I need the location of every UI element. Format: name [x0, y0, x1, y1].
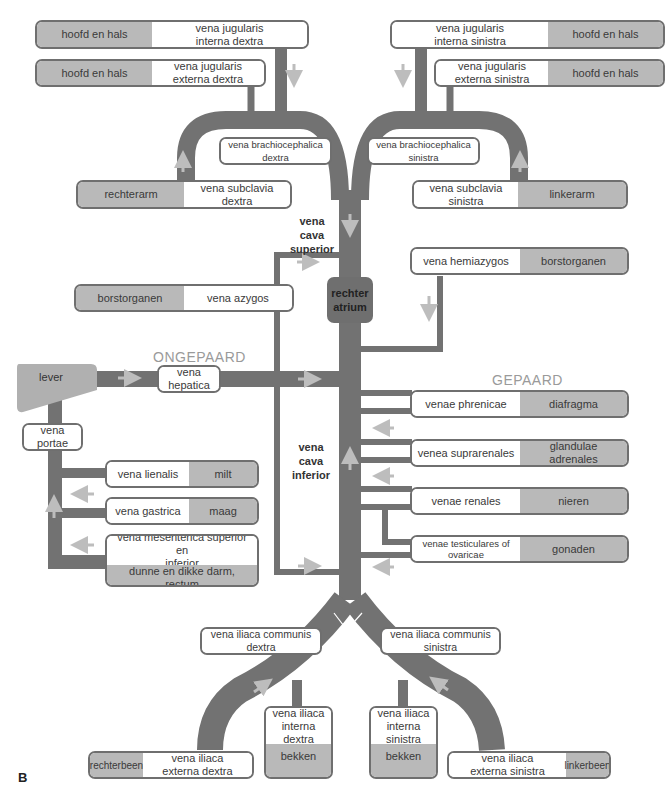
figure-label: B: [18, 770, 27, 785]
azygos-box: borstorganen vena azygos: [74, 284, 294, 312]
vein-label: vena iliaca: [482, 752, 534, 765]
organ-label: bekken: [371, 744, 436, 777]
jugularis-externa-sinistra-box: vena jugularis externa sinistra hoofd en…: [434, 59, 665, 87]
vein-label: vena jugularis: [174, 60, 242, 73]
mesenterica-box: vena mesenterica superior en inferior du…: [105, 534, 259, 587]
organ-label: borstorganen: [76, 286, 184, 310]
vein-label: venea suprarenales: [412, 441, 520, 465]
brachiocephalica-sinistra-box: vena brachiocephalica sinistra: [367, 137, 480, 165]
vein-label: vena iliaca: [273, 707, 325, 720]
hemiazygos-box: vena hemiazygos borstorganen: [410, 247, 629, 275]
section-gepaard: GEPAARD: [492, 372, 563, 388]
iliaca-interna-sinistra-box: vena iliaca interna sinistra bekken: [369, 706, 438, 779]
iliaca-communis-dextra-box: vena iliaca communis dextra: [200, 627, 322, 655]
organ-label: milt: [189, 462, 257, 486]
organ-label: bekken: [266, 744, 331, 777]
vein-label: vena hemiazygos: [412, 249, 520, 273]
vein-label: vena iliaca communis sinistra: [382, 629, 499, 653]
vein-label: interna sinistra: [434, 35, 506, 48]
vein-label: vena iliaca: [172, 752, 224, 765]
vein-label: venae testiculares of: [422, 538, 509, 549]
vein-label: interna dextra: [196, 35, 263, 48]
vein-label: vena jugularis: [458, 60, 526, 73]
vein-label: vena iliaca: [378, 707, 430, 720]
jugularis-interna-dextra-box: hoofd en hals vena jugularis interna dex…: [35, 20, 309, 49]
vein-label: vena jugularis: [196, 22, 264, 35]
vein-label: venae phrenicae: [412, 392, 520, 416]
vein-label: vena gastrica: [107, 499, 189, 523]
iliaca-externa-dextra-box: rechterbeen vena iliaca externa dextra: [88, 751, 254, 779]
lienalis-box: vena lienalis milt: [105, 460, 259, 488]
vein-label: vena jugularis: [436, 22, 504, 35]
organ-label: diafragma: [520, 392, 627, 416]
vein-label: vena brachiocephalica dextra: [221, 139, 330, 163]
organ-label: linkerarm: [518, 182, 626, 207]
vein-label: vena hepatica: [159, 367, 219, 391]
lever-label: lever: [36, 370, 66, 384]
testiculares-box: venae testiculares of ovaricae gonaden: [410, 535, 629, 563]
vein-label: vena iliaca communis dextra: [202, 629, 320, 653]
vein-label: externa sinistra: [455, 73, 530, 86]
vein-label: interna dextra: [270, 720, 327, 746]
organ-label: maag: [189, 499, 257, 523]
vein-label: externa sinistra: [470, 765, 545, 778]
vein-label: vena subclavia sinistra: [414, 182, 518, 207]
organ-label: nieren: [520, 489, 627, 513]
vein-label: ovaricae: [448, 549, 484, 560]
iliaca-interna-dextra-box: vena iliaca interna dextra bekken: [264, 706, 333, 779]
vena-cava-superior-label: vena cava superior: [290, 214, 334, 256]
organ-label: hoofd en hals: [37, 22, 152, 47]
organ-label: rechterarm: [78, 182, 184, 207]
organ-label: hoofd en hals: [548, 61, 663, 85]
vein-label: externa dextra: [173, 73, 243, 86]
organ-label: borstorganen: [520, 249, 627, 273]
portae-box: vena portae: [22, 423, 83, 451]
vein-label: vena mesenterica superior en: [111, 534, 253, 557]
subclavia-sinistra-box: vena subclavia sinistra linkerarm: [412, 180, 628, 209]
vein-label: vena lienalis: [107, 462, 189, 486]
organ-label: linkerbeen: [566, 753, 609, 777]
organ-label: glandulae adrenales: [520, 441, 627, 465]
subclavia-dextra-box: rechterarm vena subclavia dextra: [76, 180, 292, 209]
organ-label: hoofd en hals: [548, 22, 663, 47]
vena-cava-inferior-label: vena cava inferior: [286, 440, 336, 482]
suprarenales-box: venea suprarenales glandulae adrenales: [410, 439, 629, 467]
vein-label: vena portae: [24, 425, 81, 449]
gastrica-box: vena gastrica maag: [105, 497, 259, 525]
vein-label: venae renales: [412, 489, 520, 513]
jugularis-interna-sinistra-box: vena jugularis interna sinistra hoofd en…: [390, 20, 665, 49]
vein-label: externa dextra: [162, 765, 232, 778]
vein-label: vena subclavia dextra: [184, 182, 290, 207]
organ-label: gonaden: [520, 537, 627, 561]
renales-box: venae renales nieren: [410, 487, 629, 515]
organ-label: hoofd en hals: [37, 61, 152, 85]
iliaca-externa-sinistra-box: vena iliaca externa sinistra linkerbeen: [447, 751, 611, 779]
section-ongepaard: ONGEPAARD: [153, 349, 246, 365]
vein-label: vena brachiocephalica sinistra: [369, 139, 478, 163]
phrenicae-box: venae phrenicae diafragma: [410, 390, 629, 418]
rechter-atrium: rechter atrium: [327, 277, 373, 323]
organ-label: rechterbeen: [90, 753, 143, 777]
iliaca-communis-sinistra-box: vena iliaca communis sinistra: [380, 627, 501, 655]
hepatica-box: vena hepatica: [157, 365, 221, 393]
organ-label: dunne en dikke darm, rectum: [107, 565, 257, 587]
vein-label: vena azygos: [184, 286, 292, 310]
vein-label: interna sinistra: [375, 720, 432, 746]
jugularis-externa-dextra-box: hoofd en hals vena jugularis externa dex…: [35, 59, 266, 87]
brachiocephalica-dextra-box: vena brachiocephalica dextra: [219, 137, 332, 165]
